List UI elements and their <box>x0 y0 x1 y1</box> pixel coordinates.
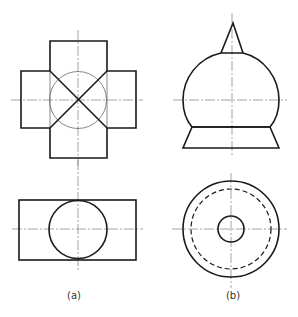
technical-drawing: (a) (b) <box>0 0 298 317</box>
left-arm <box>21 71 50 128</box>
bottom-arm <box>50 128 107 158</box>
right-arm <box>107 71 136 128</box>
drawing-svg <box>0 0 298 317</box>
dome <box>183 53 279 127</box>
frustum <box>183 127 279 148</box>
figure-a-front-view <box>11 30 143 166</box>
figure-b-label: (b) <box>226 290 240 301</box>
figure-a-top-view <box>12 160 143 270</box>
rectangle <box>19 200 136 260</box>
figure-b-front-view <box>173 13 287 157</box>
top-arm <box>50 41 107 71</box>
figure-b-top-view <box>172 173 287 288</box>
figure-a-label: (a) <box>67 290 81 301</box>
